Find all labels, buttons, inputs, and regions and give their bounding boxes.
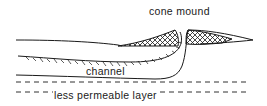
cone-mound-label: cone mound (149, 6, 210, 17)
less-permeable-layer-label: less permeable layer (53, 90, 158, 101)
channel-label: channel (86, 66, 125, 77)
cone-mound-left (118, 30, 178, 46)
ground-surface-line (16, 40, 122, 46)
